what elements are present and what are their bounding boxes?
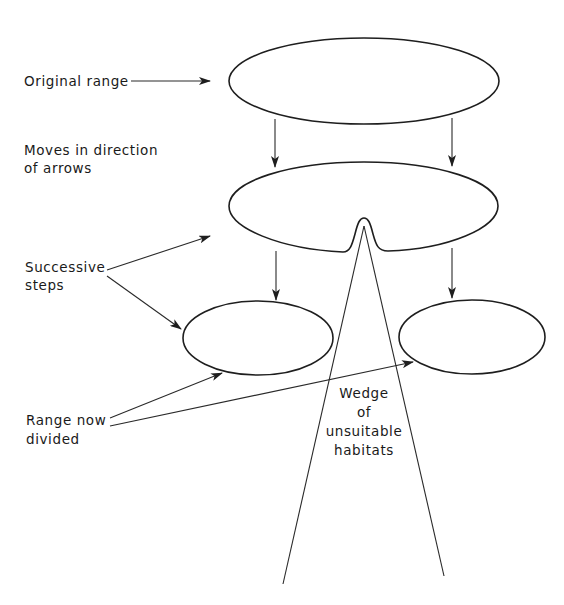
- wedge-left-edge: [283, 226, 364, 584]
- label-successive-line1: Successive: [25, 259, 105, 275]
- original-range-ellipse: [229, 38, 499, 124]
- step-range-notched-ellipse: [229, 162, 498, 252]
- range-divided-pointer-arrow-left: [110, 373, 222, 418]
- label-successive-line2: steps: [25, 277, 64, 293]
- label-range-divided-line1: Range now: [26, 412, 106, 428]
- divided-range-left-ellipse: [183, 301, 333, 375]
- successive-pointer-arrow-upper: [107, 236, 210, 270]
- label-original-range: Original range: [24, 73, 129, 89]
- wedge-right-edge: [364, 226, 444, 576]
- label-wedge-line1: Wedge: [339, 385, 388, 401]
- label-moves-line2: of arrows: [24, 160, 92, 176]
- label-wedge-line4: habitats: [334, 442, 394, 458]
- label-wedge-line3: unsuitable: [326, 423, 403, 439]
- divided-range-right-ellipse: [399, 300, 545, 374]
- range-division-diagram: Original range Moves in direction of arr…: [0, 0, 564, 605]
- label-range-divided-line2: divided: [26, 431, 80, 447]
- label-moves-line1: Moves in direction: [24, 142, 158, 158]
- label-wedge-line2: of: [357, 404, 372, 420]
- successive-pointer-arrow-lower: [107, 276, 181, 329]
